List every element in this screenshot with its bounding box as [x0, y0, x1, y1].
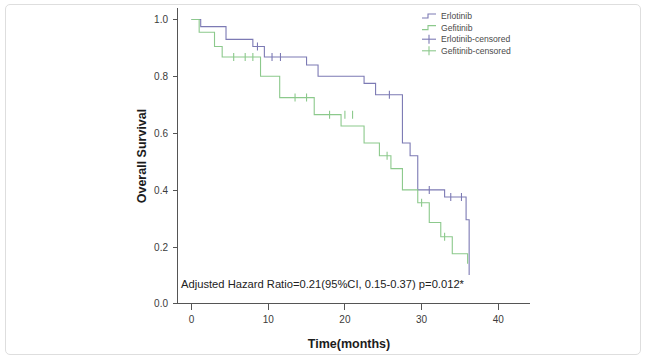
x-tick-label: 10 — [263, 314, 275, 325]
y-tick-label: 0.6 — [154, 128, 168, 139]
kaplan-meier-chart: 1.0 0.8 0.6 0.4 0.2 0.0 0 10 20 30 40 — [0, 0, 647, 358]
x-axis-ticks: 0 10 20 30 40 — [189, 304, 505, 326]
y-axis-ticks: 1.0 0.8 0.6 0.4 0.2 0.0 — [154, 14, 177, 309]
x-axis-title: Time(months) — [308, 337, 390, 351]
y-axis-title: Overall Survival — [135, 109, 149, 204]
y-tick-label: 1.0 — [154, 14, 168, 25]
y-tick-label: 0.8 — [154, 71, 168, 82]
legend-label: Erlotinib-censored — [441, 34, 510, 44]
figure-root: 1.0 0.8 0.6 0.4 0.2 0.0 0 10 20 30 40 — [0, 0, 647, 358]
legend-label: Gefitinib-censored — [441, 46, 511, 56]
x-tick-label: 40 — [493, 314, 505, 325]
x-tick-label: 20 — [339, 314, 351, 325]
y-tick-label: 0.2 — [154, 242, 168, 253]
hazard-ratio-annotation: Adjusted Hazard Ratio=0.21(95%CI, 0.15-0… — [181, 278, 465, 290]
x-tick-label: 30 — [416, 314, 428, 325]
legend-label: Erlotinib — [441, 11, 472, 21]
y-tick-label: 0.4 — [154, 185, 168, 196]
y-tick-label: 0.0 — [154, 298, 168, 309]
x-tick-label: 0 — [189, 314, 195, 325]
legend-label: Gefitinib — [441, 23, 473, 33]
